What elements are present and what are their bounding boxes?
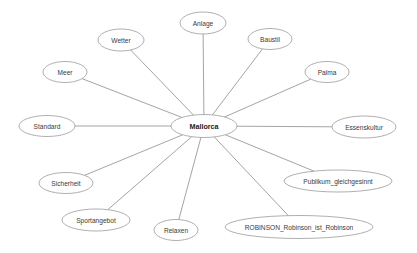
diagram-canvas: AnlageBaustilPalmaEssenskulturPublikum_g… bbox=[0, 0, 417, 253]
node-label-baustil: Baustil bbox=[260, 36, 280, 43]
center-node-mallorca[interactable]: Mallorca bbox=[171, 115, 237, 138]
node-label-meer: Meer bbox=[57, 69, 73, 76]
node-baustil[interactable]: Baustil bbox=[248, 29, 292, 50]
edge-mallorca-to-sportangebot bbox=[108, 137, 192, 210]
node-label-wetter: Wetter bbox=[111, 37, 131, 44]
edge-mallorca-to-sicherheit bbox=[85, 135, 183, 176]
node-palma[interactable]: Palma bbox=[305, 62, 349, 83]
edge-mallorca-to-wetter bbox=[131, 50, 194, 115]
edge-mallorca-to-anlage bbox=[203, 34, 204, 115]
edge-mallorca-to-essenskultur bbox=[237, 126, 332, 127]
edge-mallorca-to-baustil bbox=[212, 49, 262, 115]
node-label-relaxen: Relaxen bbox=[164, 227, 189, 234]
node-label-standard: Standard bbox=[34, 123, 61, 130]
node-label-sportangebot: Sportangebot bbox=[76, 217, 116, 225]
node-meer[interactable]: Meer bbox=[43, 62, 87, 83]
edge-mallorca-to-publikum_gleichgesinnt bbox=[225, 135, 314, 171]
node-label-essenskultur: Essenskultur bbox=[345, 124, 384, 131]
node-label-palma: Palma bbox=[318, 69, 337, 76]
node-relaxen[interactable]: Relaxen bbox=[154, 220, 198, 241]
concept-map-graph: AnlageBaustilPalmaEssenskulturPublikum_g… bbox=[0, 0, 417, 253]
edge-mallorca-to-meer bbox=[82, 79, 182, 118]
node-robinson[interactable]: ROBINSON_Robinson_ist_Robinson bbox=[225, 216, 373, 239]
node-label-robinson: ROBINSON_Robinson_ist_Robinson bbox=[245, 224, 354, 232]
edge-mallorca-to-robinson bbox=[214, 137, 288, 216]
node-label-anlage: Anlage bbox=[193, 20, 214, 28]
edge-mallorca-to-relaxen bbox=[179, 137, 201, 219]
node-label-mallorca: Mallorca bbox=[189, 122, 219, 131]
node-label-sicherheit: Sicherheit bbox=[51, 180, 80, 187]
node-sicherheit[interactable]: Sicherheit bbox=[39, 173, 93, 194]
node-anlage[interactable]: Anlage bbox=[180, 12, 226, 34]
node-essenskultur[interactable]: Essenskultur bbox=[332, 116, 396, 138]
node-wetter[interactable]: Wetter bbox=[98, 29, 144, 51]
node-standard[interactable]: Standard bbox=[19, 116, 75, 137]
node-label-publikum_gleichgesinnt: Publikum_gleichgesinnt bbox=[303, 178, 372, 186]
edge-mallorca-to-palma bbox=[225, 79, 311, 117]
node-sportangebot[interactable]: Sportangebot bbox=[62, 209, 130, 231]
node-publikum_gleichgesinnt[interactable]: Publikum_gleichgesinnt bbox=[284, 170, 392, 192]
